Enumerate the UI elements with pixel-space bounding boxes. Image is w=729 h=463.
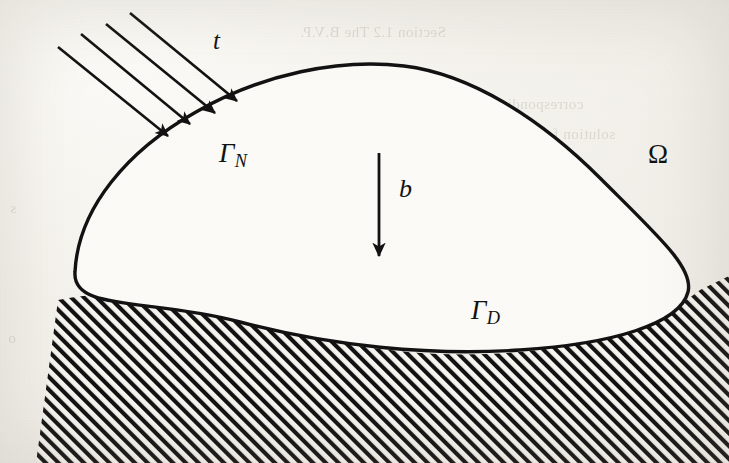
label-traction-t: t	[213, 28, 220, 53]
label-gamma-d-subscript: D	[487, 308, 500, 328]
label-body-force-b: b	[399, 176, 412, 202]
domain-diagram-svg	[0, 0, 729, 463]
label-gamma-d: ΓD	[471, 297, 500, 328]
label-gamma-n: ΓN	[219, 140, 247, 171]
label-gamma-n-subscript: N	[235, 151, 247, 171]
label-domain-omega: Ω	[648, 141, 668, 168]
figure-canvas: Section 1.2 The B.V.P.corresponding to t…	[0, 0, 729, 463]
domain-outline-omega	[75, 64, 689, 352]
